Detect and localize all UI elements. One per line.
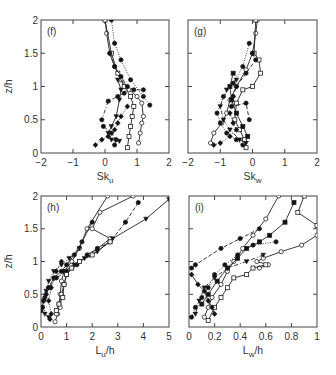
x-tick-label: 1 <box>134 157 140 168</box>
series-group <box>39 194 171 324</box>
data-point <box>189 266 193 270</box>
data-point <box>231 71 235 75</box>
data-point <box>206 292 210 296</box>
data-point <box>250 51 254 55</box>
data-point <box>46 279 51 283</box>
x-tick-label: 2 <box>89 331 95 342</box>
data-point <box>251 266 255 270</box>
data-point <box>315 223 319 227</box>
x-tick-label: 0.8 <box>284 331 298 342</box>
data-point <box>125 104 130 109</box>
data-point <box>113 64 117 68</box>
data-point <box>129 78 133 82</box>
data-point <box>241 64 245 68</box>
series-line-s4 <box>111 20 149 105</box>
x-tick-label: 5 <box>166 331 172 342</box>
data-point <box>135 94 139 98</box>
data-point <box>125 84 129 88</box>
data-point <box>57 302 61 306</box>
data-point <box>251 233 255 237</box>
data-point <box>113 143 117 147</box>
data-point <box>264 217 268 221</box>
x-tick-label: 0 <box>38 331 44 342</box>
y-tick-label: 1 <box>32 81 38 92</box>
data-point <box>130 114 134 118</box>
y-tick-label: 0 <box>32 322 38 333</box>
data-point <box>234 111 238 115</box>
data-point <box>70 266 74 270</box>
data-point <box>65 263 69 267</box>
x-tick-label: 0.6 <box>259 331 273 342</box>
series-line-s2 <box>298 196 317 225</box>
data-point <box>109 125 114 129</box>
x-tick-label: 2 <box>166 157 172 168</box>
data-point <box>257 227 261 231</box>
series-group <box>189 194 319 323</box>
x-axis-label-sub: u <box>109 176 113 185</box>
data-point <box>117 98 122 102</box>
data-point <box>109 18 113 22</box>
data-point <box>254 18 258 22</box>
data-point <box>254 31 258 35</box>
y-tick-label: 1.5 <box>24 223 38 234</box>
data-point <box>136 200 140 204</box>
data-point <box>300 243 304 247</box>
data-point <box>114 115 119 119</box>
panel-g: −2−1012Skw(g) <box>182 18 320 185</box>
data-point <box>218 121 222 125</box>
data-point <box>108 51 112 55</box>
series-group <box>208 18 262 150</box>
x-tick-label: 3 <box>115 331 121 342</box>
data-point <box>108 240 112 244</box>
data-point <box>193 312 198 316</box>
data-point <box>93 142 98 147</box>
data-point <box>234 84 238 88</box>
data-point <box>257 240 261 244</box>
x-tick-label: −2 <box>35 157 47 168</box>
series-line-s6 <box>192 229 260 268</box>
data-point <box>245 273 249 277</box>
x-tick-label: −2 <box>182 157 194 168</box>
data-point <box>122 91 126 95</box>
plot-frame <box>41 20 169 153</box>
data-point <box>113 41 117 45</box>
data-point <box>247 118 251 122</box>
x-tick-label: 0 <box>102 157 108 168</box>
data-point <box>59 269 63 273</box>
figure: −2−101200.511.52Skuz/h(f) −2−1012Skw(g) … <box>0 0 336 375</box>
data-point <box>219 296 223 300</box>
data-point <box>119 58 123 62</box>
data-point <box>241 88 245 92</box>
data-point <box>98 210 102 214</box>
data-point <box>264 263 268 267</box>
data-point <box>140 101 144 105</box>
data-point <box>315 233 319 237</box>
y-axis-label: z/h <box>2 254 14 268</box>
x-tick-label: 0.4 <box>233 331 247 342</box>
x-tick-label: 0 <box>250 157 256 168</box>
data-point <box>225 131 229 135</box>
x-axis-label-main: Sk <box>243 170 256 182</box>
data-point <box>52 276 56 280</box>
data-point <box>292 201 296 205</box>
data-point <box>72 253 76 257</box>
data-point <box>54 309 58 313</box>
x-tick-label: 1 <box>314 331 320 342</box>
data-point <box>62 282 66 286</box>
data-point <box>215 279 219 283</box>
x-axis-label: Lu/h <box>95 344 114 359</box>
series-line-s4 <box>208 265 266 321</box>
data-point <box>127 134 131 138</box>
x-tick-label: 1 <box>282 157 288 168</box>
x-axis-label: Lw/h <box>243 344 264 359</box>
x-axis-label-suffix: /h <box>254 344 263 356</box>
data-point <box>259 71 263 75</box>
series-group <box>93 18 152 150</box>
data-point <box>279 250 283 254</box>
data-point <box>115 120 120 125</box>
data-point <box>219 246 223 250</box>
data-point <box>274 240 278 244</box>
data-point <box>283 220 287 224</box>
panel-tag: (f) <box>47 26 56 37</box>
data-point <box>251 85 255 89</box>
